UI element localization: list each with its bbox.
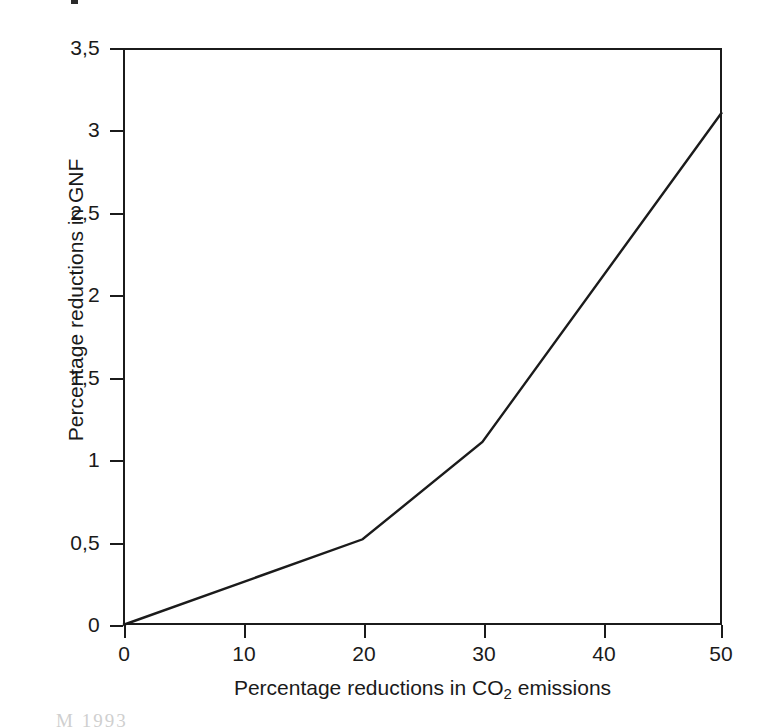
scan-artifact-caption: M 1993 [56, 711, 128, 728]
scan-artifact-speck [71, 0, 78, 4]
x-tick-mark [484, 625, 486, 638]
y-tick-label: 0 [40, 614, 100, 635]
x-tick-mark [604, 625, 606, 638]
x-tick-label: 10 [209, 643, 279, 664]
y-tick-mark [110, 625, 123, 627]
x-tick-label: 40 [569, 643, 639, 664]
y-tick-mark [110, 295, 123, 297]
y-tick-mark [110, 130, 123, 132]
x-tick-mark [244, 625, 246, 638]
x-tick-mark [124, 625, 126, 638]
y-tick-label: 3,5 [40, 37, 100, 58]
x-tick-label: 20 [329, 643, 399, 664]
y-tick-mark [110, 48, 123, 50]
chart-data-layer [123, 48, 722, 625]
y-tick-mark [110, 460, 123, 462]
x-tick-label: 50 [686, 643, 756, 664]
y-axis-title: Percentage reductions in GNF [64, 65, 88, 535]
y-tick-mark [110, 543, 123, 545]
x-tick-label: 0 [89, 643, 159, 664]
data-series-line [123, 112, 722, 625]
y-tick-mark [110, 378, 123, 380]
y-tick-label: 0,5 [40, 532, 100, 553]
x-axis-title-suffix: emissions [512, 676, 611, 699]
x-tick-label: 30 [449, 643, 519, 664]
x-tick-mark [364, 625, 366, 638]
x-axis-title: Percentage reductions in CO2 emissions [123, 676, 722, 706]
y-tick-mark [110, 213, 123, 215]
x-tick-mark [721, 625, 723, 638]
x-axis-title-prefix: Percentage reductions in CO [234, 676, 504, 699]
chart-figure: 3,5 3 2,5 2 1,5 1 0,5 0 0 10 20 30 40 50… [0, 0, 770, 728]
x-axis-title-subscript: 2 [504, 685, 512, 702]
